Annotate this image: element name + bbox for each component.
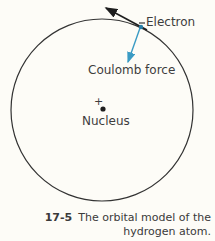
electron-dot — [139, 25, 143, 29]
figure-number: 17-5 — [45, 211, 73, 224]
caption-line-1: The orbital model of the — [78, 211, 211, 224]
force-arrow — [128, 28, 140, 62]
nucleus-charge-sign: + — [94, 95, 103, 109]
figure-caption: 17-5The orbital model of the — [45, 211, 211, 225]
coulomb-force-label: Coulomb force — [88, 63, 175, 77]
figure-caption-line-2: hydrogen atom. — [123, 225, 211, 239]
nucleus-label: Nucleus — [82, 114, 130, 128]
electron-label: Electron — [146, 15, 195, 29]
